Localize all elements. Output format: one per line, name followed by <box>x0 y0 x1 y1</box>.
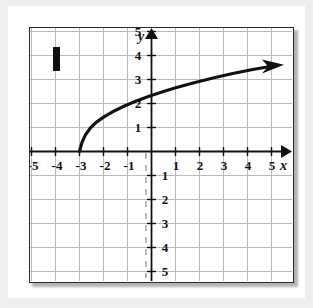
y-axis-label: y <box>138 30 144 44</box>
panel-label-roman-numeral <box>53 47 60 71</box>
x-tick-label-1: 1 <box>169 159 183 172</box>
x-tick-label-neg-2: -2 <box>96 159 114 172</box>
figure-card: 5 4 3 2 1 1 2 3 4 5 -5 -4 -3 -2 -1 1 2 3… <box>8 6 305 298</box>
x-tick-label-neg-3: -3 <box>72 159 90 172</box>
x-axis-arrowhead <box>281 145 292 158</box>
y-tick-label-3: 3 <box>131 73 145 86</box>
x-tick-label-2: 2 <box>193 159 207 172</box>
y-tick-label-1: 1 <box>131 121 145 134</box>
y-tick-label-neg-2: 2 <box>158 193 172 206</box>
figure-root: 5 4 3 2 1 1 2 3 4 5 -5 -4 -3 -2 -1 1 2 3… <box>0 0 313 308</box>
y-tick-label-neg-4: 4 <box>158 241 172 254</box>
y-axis-arrowhead <box>145 28 158 39</box>
x-tick-label-neg-4: -4 <box>48 159 66 172</box>
y-tick-label-2: 2 <box>131 97 145 110</box>
plot-frame: 5 4 3 2 1 1 2 3 4 5 -5 -4 -3 -2 -1 1 2 3… <box>29 27 294 283</box>
x-axis-label: x <box>280 159 287 173</box>
x-tick-label-3: 3 <box>217 159 231 172</box>
y-tick-label-neg-3: 3 <box>158 217 172 230</box>
x-tick-label-neg-5: -5 <box>29 159 42 172</box>
x-tick-label-neg-1: -1 <box>120 159 138 172</box>
y-tick-label-neg-5: 5 <box>158 265 172 278</box>
y-tick-label-4: 4 <box>131 49 145 62</box>
x-tick-label-4: 4 <box>241 159 255 172</box>
x-tick-label-5: 5 <box>265 159 279 172</box>
